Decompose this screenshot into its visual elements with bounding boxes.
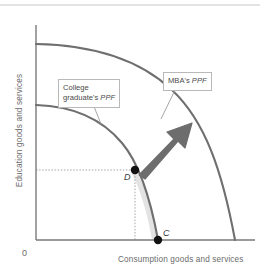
college-ppf-curve: [36, 105, 158, 240]
y-axis-label: Education goods and services: [15, 51, 24, 211]
callout-college-graduate-ppf: College graduate's PPF: [58, 79, 120, 108]
point-label-C: C: [163, 228, 170, 238]
point-label-D: D: [124, 172, 131, 182]
origin-label: 0: [22, 248, 27, 258]
callout-mba-ppf-abbr: PPF: [192, 76, 207, 85]
mba-callout-leader: [161, 88, 176, 119]
callout-college-line1: College: [63, 83, 89, 92]
callout-college-ppf-abbr: PPF: [100, 93, 115, 102]
callout-college-line2-prefix: graduate's: [63, 93, 100, 102]
point-D-marker: [131, 166, 139, 174]
outward-shift-arrow: [139, 123, 192, 179]
ppf-chart-canvas: [0, 0, 260, 273]
ppf-figure: Education goods and services Consumption…: [0, 0, 260, 273]
x-axis-label: Consumption goods and services: [118, 255, 244, 264]
callout-mba-prefix: MBA's: [168, 76, 192, 85]
point-C-marker: [154, 236, 162, 244]
callout-mba-ppf: MBA's PPF: [163, 72, 212, 91]
